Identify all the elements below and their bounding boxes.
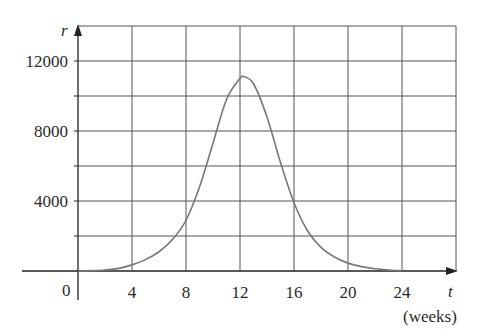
chart: 4812162024 4000800012000 0 r t (weeks) [0,0,479,334]
x-tick-label: 20 [340,283,357,302]
x-tick-labels: 4812162024 [128,283,411,302]
y-tick-label: 4000 [34,192,68,211]
x-tick-label: 12 [232,283,249,302]
x-axis-label: t [448,282,454,301]
x-axis-unit: (weeks) [403,307,457,326]
y-tick-labels: 4000800012000 [26,52,69,211]
y-axis-label: r [61,21,68,40]
y-tick-label: 12000 [26,52,69,71]
x-tick-label: 24 [394,283,412,302]
x-tick-label: 16 [286,283,303,302]
x-tick-label: 4 [128,283,137,302]
x-tick-label: 8 [182,283,191,302]
y-tick-label: 8000 [34,122,68,141]
grid-lines [78,26,456,271]
origin-label: 0 [62,281,71,300]
